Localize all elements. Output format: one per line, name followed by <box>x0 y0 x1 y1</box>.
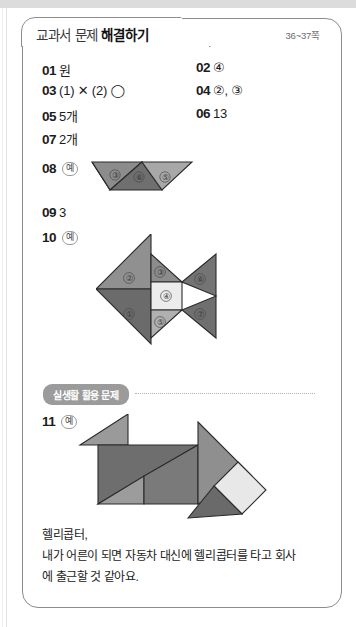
answer-item-07: 072개 <box>42 129 78 148</box>
answer-item-02: 02④ <box>196 60 225 75</box>
answer-value: 5개 <box>59 109 78 124</box>
answer-item-11: 11예 <box>42 414 77 429</box>
piece-label-2: ② <box>126 274 133 283</box>
answer-number: 07 <box>42 132 56 147</box>
tangram-10-fish: ② ① ③ ④ ⑤ ⑥ ⑦ <box>96 234 271 352</box>
page-top-band <box>0 0 356 8</box>
piece-label-1: ① <box>126 310 133 319</box>
page-left-rule-outer <box>2 8 3 627</box>
example-badge: 예 <box>62 231 78 245</box>
piece-label-5: ⑤ <box>162 173 169 182</box>
answer-value: 13 <box>213 106 227 121</box>
student-answer-text: 헬리콥터, 내가 어른이 되면 자동차 대신에 헬리콥터를 타고 회사 에 출근… <box>42 525 310 588</box>
answer-item-08: 08예 <box>42 161 78 176</box>
tangram-piece-rotor-blade <box>80 414 128 445</box>
piece-label-3: ③ <box>157 268 164 277</box>
answer-value: ②, ③ <box>213 83 243 98</box>
answer-number: 02 <box>196 60 210 75</box>
page-range-label: 36~37쪽 <box>286 28 320 42</box>
answer-number: 11 <box>42 414 55 429</box>
answer-item-01: 01원 <box>42 60 71 79</box>
answer-item-10: 10예 <box>42 230 78 245</box>
answer-item-05: 055개 <box>42 106 78 125</box>
example-badge: 예 <box>61 415 77 429</box>
answer-item-04: 04②, ③ <box>196 83 243 98</box>
section-label: 실생활 활용 문제 <box>43 384 129 405</box>
tangram-piece-2 <box>96 234 151 289</box>
answer-text-line-2: 내가 어른이 되면 자동차 대신에 헬리콥터를 타고 회사 <box>42 546 310 567</box>
page-title: 교과서 문제 해결하기 <box>36 24 148 44</box>
tangram-piece-1 <box>96 289 151 344</box>
piece-label-4: ④ <box>163 292 170 301</box>
answer-number: 10 <box>42 230 56 245</box>
answer-text-line-1: 헬리콥터, <box>42 525 310 546</box>
answer-text-line-3: 에 출근할 것 같아요. <box>42 567 310 588</box>
section-dotted-rule <box>135 393 315 394</box>
answer-number: 08 <box>42 161 56 176</box>
answer-value: ④ <box>213 60 224 75</box>
answer-number: 06 <box>196 106 210 121</box>
page-left-rule-inner <box>6 8 7 627</box>
answer-number: 01 <box>42 63 56 78</box>
tangram-08-parallelogram: ③ ⑥ ⑤ <box>76 160 198 200</box>
answer-number: 03 <box>42 83 56 98</box>
answer-value: 원 <box>59 63 71 78</box>
answer-item-03: 03(1) ✕ (2) ◯ <box>42 83 125 98</box>
answer-item-09: 093 <box>42 205 66 220</box>
piece-label-6: ⑥ <box>136 173 143 182</box>
answer-value: (1) ✕ (2) ◯ <box>59 83 125 98</box>
piece-label-7: ⑦ <box>197 310 204 319</box>
answer-value: 2개 <box>59 132 78 147</box>
piece-label-3: ③ <box>112 171 119 180</box>
answer-value: 3 <box>59 205 66 220</box>
tab-title-part1: 교과서 문제 <box>36 28 98 43</box>
answer-number: 09 <box>42 205 56 220</box>
piece-label-6: ⑥ <box>197 275 204 284</box>
tab-seam-mask <box>23 44 209 49</box>
piece-label-5: ⑤ <box>157 318 164 327</box>
tangram-11-helicopter <box>76 414 296 520</box>
answer-number: 04 <box>196 83 210 98</box>
tab-title-part2: 해결하기 <box>101 28 148 43</box>
answer-number: 05 <box>42 109 56 124</box>
answer-item-06: 0613 <box>196 106 227 121</box>
